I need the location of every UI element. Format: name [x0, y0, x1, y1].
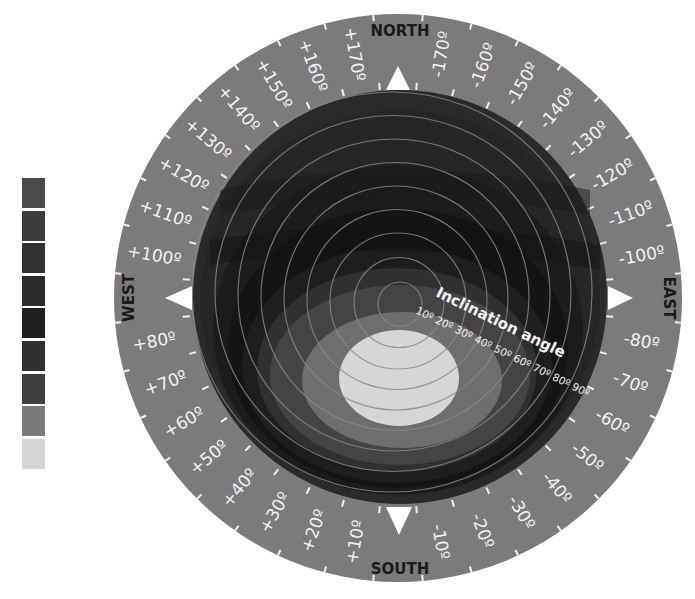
- azimuth-tick: [416, 506, 417, 513]
- azimuth-tick: [115, 273, 121, 274]
- azimuth-tick: [379, 506, 380, 513]
- azimuth-tick: [675, 322, 681, 323]
- azimuth-tick: [379, 83, 380, 90]
- azimuth-tick: [606, 279, 613, 280]
- azimuth-tick: [606, 316, 613, 317]
- east-label: EAST: [660, 277, 678, 321]
- azimuth-tick: [183, 279, 190, 280]
- azimuth-tick: [373, 15, 374, 21]
- north-label: NORTH: [371, 22, 430, 40]
- west-label: WEST: [120, 273, 138, 322]
- azimuth-tick: [416, 83, 417, 90]
- south-label: SOUTH: [371, 560, 430, 578]
- azimuth-tick: [675, 273, 681, 274]
- azimuth-tick: [422, 15, 423, 21]
- azimuth-tick: [183, 316, 190, 317]
- irradiance-disc: [193, 90, 607, 504]
- sky-diagram: +10º+20º+30º+40º+50º+60º+70º+80º+100º+11…: [0, 0, 695, 599]
